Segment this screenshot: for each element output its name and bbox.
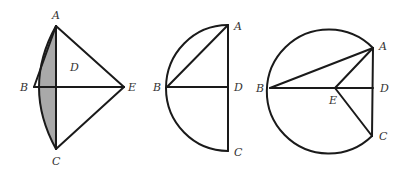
segment-ac <box>372 48 373 136</box>
geometry-diagram: A B C D E A B C D A B C D E <box>0 0 408 176</box>
circle-arc <box>267 30 373 154</box>
label-e: E <box>328 94 337 107</box>
label-c: C <box>379 130 388 143</box>
label-c: C <box>234 146 243 159</box>
label-d: D <box>379 82 389 95</box>
label-b: B <box>19 81 28 94</box>
figure-1: A B C D E <box>19 9 136 168</box>
label-b: B <box>255 82 264 95</box>
segment-ec <box>335 88 372 136</box>
label-d: D <box>69 61 79 74</box>
segment-ba <box>167 25 228 87</box>
label-a: A <box>233 20 242 33</box>
segment-ce <box>56 87 124 149</box>
figure-3: A B C D E <box>255 30 389 154</box>
label-d: D <box>233 81 243 94</box>
figure-2: A B C D <box>152 20 243 159</box>
segment-ea <box>335 48 373 88</box>
segment-ae <box>56 26 124 87</box>
label-b: B <box>152 81 161 94</box>
segment-ba <box>270 48 373 88</box>
label-a: A <box>378 40 387 53</box>
label-a: A <box>51 9 60 22</box>
label-c: C <box>52 155 61 168</box>
label-e: E <box>127 81 136 94</box>
